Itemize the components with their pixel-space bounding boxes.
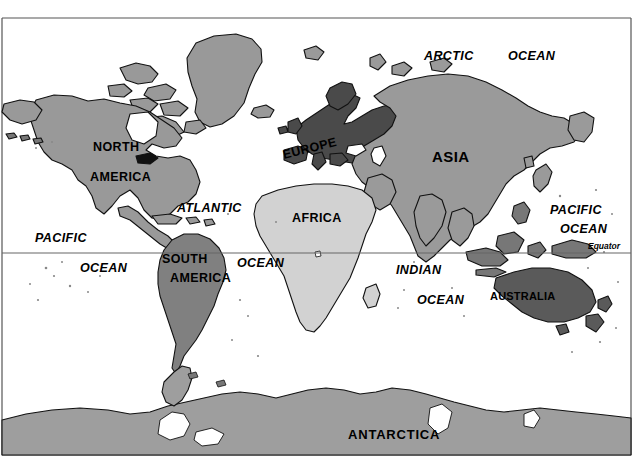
world-map-graphic (0, 0, 633, 466)
world-map: ARCTIC OCEAN ATLANTIC OCEAN PACIFIC OCEA… (0, 0, 633, 466)
africa-equator-dot (315, 251, 321, 257)
korea-sakhalin (524, 156, 534, 168)
